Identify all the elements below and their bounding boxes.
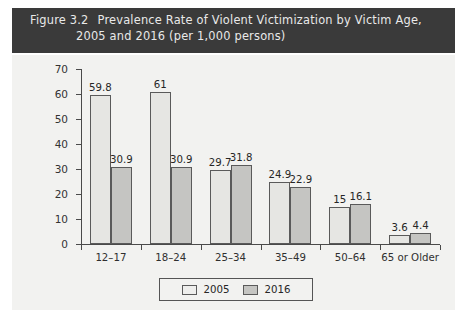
- y-tick-label: 0: [42, 238, 68, 250]
- bar-value-label: 59.8: [85, 82, 116, 93]
- figure-title-line-2: 2005 and 2016 (per 1,000 persons): [30, 29, 455, 45]
- bar-2016-35–49: [290, 187, 311, 244]
- y-tick-mark: [76, 219, 81, 220]
- x-tick-mark: [141, 245, 142, 250]
- x-tick-mark: [81, 245, 82, 250]
- bar-value-label: 4.4: [405, 220, 436, 231]
- bar-2016-18–24: [171, 167, 192, 244]
- x-tick-mark: [440, 245, 441, 250]
- x-tick-mark: [261, 245, 262, 250]
- y-tick-label: 30: [42, 163, 68, 175]
- bar-2005-65-or-Older: [389, 235, 410, 244]
- y-axis-line: [81, 69, 82, 245]
- legend-label-2016: 2016: [265, 284, 291, 295]
- y-tick-label: 50: [42, 113, 68, 125]
- legend-swatch-2016: [243, 285, 258, 295]
- figure-number: Figure 3.2: [30, 13, 89, 27]
- bar-2005-18–24: [150, 92, 171, 245]
- y-tick-mark: [76, 194, 81, 195]
- bar-value-label: 22.9: [285, 174, 316, 185]
- chart-legend: 2005 2016: [159, 278, 313, 301]
- y-tick-mark: [76, 69, 81, 70]
- y-tick-label: 60: [42, 88, 68, 100]
- bar-2016-65-or-Older: [410, 233, 431, 244]
- y-tick-mark: [76, 169, 81, 170]
- y-tick-mark: [76, 119, 81, 120]
- y-tick-label: 70: [42, 63, 68, 75]
- bar-2005-50–64: [329, 207, 350, 245]
- bar-value-label: 31.8: [226, 152, 257, 163]
- bar-2005-25–34: [210, 170, 231, 244]
- bar-value-label: 30.9: [106, 154, 137, 165]
- figure-title-band: Figure 3.2Prevalence Rate of Violent Vic…: [12, 8, 455, 53]
- chart-panel: 010203040506070 59.830.96130.929.731.824…: [12, 55, 455, 310]
- x-tick-mark: [320, 245, 321, 250]
- y-tick-mark: [76, 144, 81, 145]
- y-tick-label: 20: [42, 188, 68, 200]
- x-category-label: 65 or Older: [372, 252, 448, 263]
- legend-item-2005: 2005: [182, 284, 230, 295]
- y-tick-mark: [76, 94, 81, 95]
- figure-title-line-1: Figure 3.2Prevalence Rate of Violent Vic…: [30, 13, 455, 29]
- x-tick-mark: [380, 245, 381, 250]
- legend-item-2016: 2016: [243, 284, 291, 295]
- bar-value-label: 30.9: [166, 154, 197, 165]
- bar-value-label: 61: [145, 79, 176, 90]
- bar-2005-35–49: [269, 182, 290, 244]
- bar-2016-12–17: [111, 167, 132, 244]
- x-tick-mark: [201, 245, 202, 250]
- bar-2016-50–64: [350, 204, 371, 244]
- figure-title-text: Prevalence Rate of Violent Victimization…: [98, 13, 422, 27]
- legend-swatch-2005: [182, 285, 197, 295]
- plot-area: 010203040506070 59.830.96130.929.731.824…: [12, 55, 455, 310]
- figure-container: Figure 3.2Prevalence Rate of Violent Vic…: [0, 0, 471, 333]
- bar-value-label: 16.1: [345, 191, 376, 202]
- y-tick-label: 40: [42, 138, 68, 150]
- bar-2016-25–34: [231, 165, 252, 245]
- bar-2005-12–17: [90, 95, 111, 245]
- legend-label-2005: 2005: [204, 284, 230, 295]
- y-tick-label: 10: [42, 213, 68, 225]
